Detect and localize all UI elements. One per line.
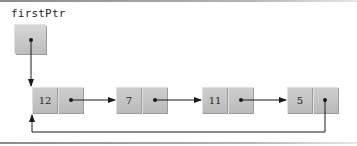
circular-linked-list-diagram: firstPtr 12 7 11 5 [0, 0, 357, 146]
bottom-rule [0, 142, 357, 144]
pointer-arrows [0, 0, 357, 146]
